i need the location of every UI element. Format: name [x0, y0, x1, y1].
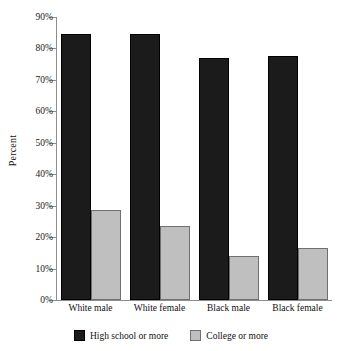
bar: [199, 58, 229, 300]
bar: [229, 256, 259, 300]
x-axis-label: Black female: [272, 303, 322, 313]
y-axis-title-text: Percent: [8, 134, 19, 165]
legend-swatch: [190, 330, 201, 341]
y-tick-label: 0%: [40, 295, 53, 305]
y-tick-label: 40%: [36, 169, 53, 179]
y-axis-line: [56, 17, 57, 300]
legend-item: College or more: [190, 330, 268, 341]
y-tick-label: 30%: [36, 201, 53, 211]
y-tick-label: 20%: [36, 232, 53, 242]
bar: [130, 34, 160, 300]
x-axis-labels: White maleWhite femaleBlack maleBlack fe…: [56, 303, 332, 319]
legend-swatch: [74, 330, 85, 341]
bar: [298, 248, 328, 300]
x-axis-label: White male: [68, 303, 112, 313]
chart-legend: High school or moreCollege or more: [0, 330, 342, 341]
y-tick-label: 70%: [36, 75, 53, 85]
legend-item: High school or more: [74, 330, 168, 341]
x-axis-label: Black male: [207, 303, 250, 313]
legend-label: College or more: [206, 331, 268, 341]
bar: [268, 56, 298, 300]
y-tick-label: 80%: [36, 43, 53, 53]
y-axis-title: Percent: [4, 0, 22, 300]
y-tick-label: 50%: [36, 138, 53, 148]
y-tick-label: 10%: [36, 264, 53, 274]
bar-chart-figure: Percent 0%10%20%30%40%50%60%70%80%90% Wh…: [0, 0, 342, 351]
legend-label: High school or more: [90, 331, 168, 341]
y-tick-label: 90%: [36, 12, 53, 22]
bar: [91, 210, 121, 300]
bar: [160, 226, 190, 300]
y-tick-label: 60%: [36, 106, 53, 116]
plot-area: 0%10%20%30%40%50%60%70%80%90%: [56, 17, 332, 300]
bar: [61, 34, 91, 300]
x-axis-line: [56, 300, 332, 301]
x-axis-label: White female: [134, 303, 185, 313]
